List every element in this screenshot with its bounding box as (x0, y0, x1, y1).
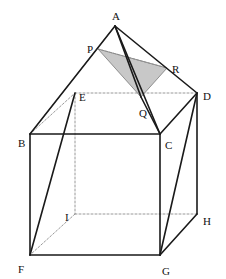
edge-dg (160, 93, 197, 255)
vertex-label-c: C (165, 140, 172, 151)
vertex-label-d: D (203, 91, 211, 102)
vertex-label-r: R (172, 64, 179, 75)
hidden-edge-be (30, 93, 75, 134)
vertex-label-b: B (18, 138, 25, 149)
vertex-label-g: G (162, 266, 170, 277)
vertex-label-a: A (112, 11, 120, 22)
geometry-figure: ABCDEFGHIPQR (0, 0, 226, 279)
vertex-label-h: H (203, 216, 211, 227)
edge-cd (160, 93, 197, 134)
vertex-label-f: F (18, 264, 24, 275)
edge-ab (30, 26, 115, 134)
geometry-canvas (0, 0, 226, 279)
edge-gh (160, 214, 197, 255)
vertex-label-p: P (87, 44, 93, 55)
vertex-label-q: Q (139, 108, 147, 119)
vertex-label-i: I (65, 212, 69, 223)
edge-ef (30, 93, 75, 255)
vertex-label-e: E (79, 92, 86, 103)
